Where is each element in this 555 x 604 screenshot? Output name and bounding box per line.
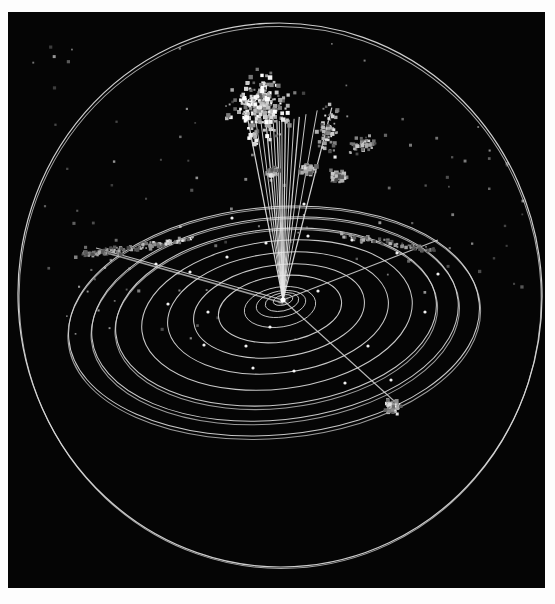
orbit-node-marker bbox=[251, 366, 254, 369]
particle-dot bbox=[340, 232, 343, 235]
particle-dot bbox=[263, 105, 266, 108]
particle-dot bbox=[506, 245, 508, 247]
particle-dot bbox=[123, 249, 125, 251]
particle-dot bbox=[287, 93, 290, 96]
particle-dot bbox=[451, 213, 454, 216]
particle-dot bbox=[225, 105, 227, 107]
particle-dot bbox=[274, 98, 276, 100]
particle-dot bbox=[268, 138, 271, 141]
particle-dot bbox=[274, 169, 277, 172]
particle-dot bbox=[264, 120, 268, 124]
particle-dot bbox=[103, 249, 106, 252]
particle-dot bbox=[277, 95, 279, 97]
particle-dot bbox=[162, 246, 164, 248]
particle-dot bbox=[247, 103, 250, 106]
particle-dot bbox=[251, 112, 253, 114]
particle-dot bbox=[396, 413, 399, 416]
particle-dot bbox=[138, 247, 140, 249]
particle-dot bbox=[331, 132, 335, 136]
particle-dot bbox=[114, 300, 116, 302]
particle-dot bbox=[327, 131, 330, 134]
particle-dot bbox=[32, 62, 34, 64]
particle-dot bbox=[378, 221, 381, 224]
particle-dot bbox=[335, 110, 338, 113]
particle-dot bbox=[251, 154, 254, 157]
particle-dot bbox=[404, 246, 408, 250]
particle-dot bbox=[325, 127, 327, 129]
sun-icon bbox=[280, 297, 285, 302]
orbit-node-marker bbox=[264, 241, 267, 244]
particle-dot bbox=[308, 172, 312, 176]
particle-dot bbox=[259, 113, 263, 117]
particle-dot bbox=[356, 258, 358, 260]
particle-dot bbox=[335, 132, 337, 134]
particle-dot bbox=[260, 89, 264, 93]
particle-dot bbox=[368, 143, 372, 147]
particle-dot bbox=[261, 102, 263, 104]
particle-dot bbox=[449, 247, 451, 249]
particle-dot bbox=[521, 214, 523, 216]
particle-dot bbox=[66, 168, 68, 170]
particle-dot bbox=[145, 242, 148, 245]
figure-stage bbox=[0, 0, 555, 604]
particle-dot bbox=[318, 140, 322, 144]
particle-dot bbox=[332, 144, 336, 148]
particle-dot bbox=[273, 129, 276, 132]
particle-dot bbox=[322, 137, 326, 141]
particle-dot bbox=[265, 134, 269, 138]
particle-dot bbox=[324, 115, 326, 117]
particle-dot bbox=[328, 150, 332, 154]
particle-dot bbox=[513, 283, 515, 285]
particle-dot bbox=[49, 46, 52, 49]
particle-dot bbox=[194, 122, 196, 124]
particle-dot bbox=[140, 248, 142, 250]
particle-dot bbox=[325, 106, 328, 109]
particle-dot bbox=[388, 187, 391, 190]
particle-dot bbox=[253, 89, 255, 91]
particle-dot bbox=[105, 247, 107, 249]
particle-dot bbox=[281, 117, 285, 121]
particle-dot bbox=[464, 160, 467, 163]
particle-dot bbox=[360, 137, 363, 140]
particle-dot bbox=[136, 249, 139, 252]
particle-dot bbox=[302, 92, 305, 95]
particle-dot bbox=[279, 102, 281, 104]
particle-dot bbox=[327, 117, 330, 120]
particle-dot bbox=[520, 285, 523, 288]
particle-dot bbox=[87, 291, 89, 293]
particle-dot bbox=[448, 186, 450, 188]
particle-dot bbox=[54, 124, 56, 126]
particle-dot bbox=[269, 120, 273, 124]
particle-dot bbox=[269, 104, 271, 106]
particle-dot bbox=[323, 141, 327, 145]
particle-dot bbox=[327, 139, 330, 142]
particle-dot bbox=[71, 49, 73, 51]
particle-dot bbox=[255, 117, 258, 120]
particle-dot bbox=[137, 289, 140, 292]
particle-dot bbox=[325, 136, 328, 139]
orbit-node-marker bbox=[436, 272, 439, 275]
particle-dot bbox=[239, 108, 242, 111]
particle-dot bbox=[338, 181, 340, 183]
particle-dot bbox=[259, 93, 262, 96]
particle-dot bbox=[237, 110, 241, 114]
particle-dot bbox=[374, 142, 376, 144]
particle-dot bbox=[471, 243, 473, 245]
particle-dot bbox=[186, 108, 188, 110]
particle-dot bbox=[396, 406, 398, 408]
particle-dot bbox=[119, 253, 123, 257]
particle-dot bbox=[66, 315, 68, 317]
particle-dot bbox=[67, 60, 70, 63]
particle-dot bbox=[409, 144, 412, 147]
particle-dot bbox=[349, 234, 352, 237]
particle-dot bbox=[253, 99, 256, 102]
particle-dot bbox=[262, 121, 264, 123]
orbit-node-marker bbox=[154, 262, 157, 265]
particle-dot bbox=[309, 165, 313, 169]
particle-dot bbox=[253, 82, 256, 85]
particle-dot bbox=[76, 210, 78, 212]
particle-dot bbox=[206, 289, 208, 291]
particle-dot bbox=[53, 55, 56, 58]
particle-dot bbox=[258, 101, 260, 103]
particle-dot bbox=[265, 74, 268, 77]
